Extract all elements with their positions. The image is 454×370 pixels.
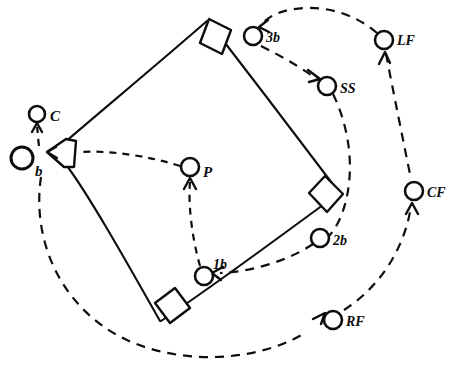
- field-svg: b C P 1b 2b 3b: [0, 0, 454, 370]
- third-base-marker[interactable]: [244, 27, 262, 45]
- path-outer-arc-right-to-center: [344, 212, 410, 310]
- path-inner-arc-third-to-short: [261, 46, 318, 80]
- left-field-label: LF: [396, 33, 416, 48]
- second-base-bag: [309, 176, 343, 212]
- batter-label: b: [35, 163, 43, 179]
- movement-paths: [37, 8, 411, 357]
- baseline-third-to-second: [209, 22, 338, 191]
- player-right-field[interactable]: RF: [324, 311, 365, 329]
- baseline-second-to-first: [161, 194, 338, 321]
- catcher-marker[interactable]: [29, 106, 45, 122]
- third-base-label: 3b: [265, 30, 280, 45]
- player-pitcher[interactable]: P: [181, 158, 213, 180]
- player-catcher[interactable]: C: [29, 106, 61, 124]
- center-field-label: CF: [427, 185, 446, 200]
- pitcher-label: P: [203, 164, 213, 180]
- pitcher-marker[interactable]: [181, 158, 199, 176]
- center-field-marker[interactable]: [405, 182, 423, 200]
- path-inner-arc-short-to-second: [325, 94, 350, 240]
- player-center-field[interactable]: CF: [405, 182, 446, 200]
- right-field-marker[interactable]: [324, 311, 342, 329]
- first-base-bag: [155, 288, 190, 323]
- player-second-base[interactable]: 2b: [311, 229, 347, 248]
- player-batter[interactable]: b: [11, 147, 43, 179]
- path-pitcher-to-home: [80, 152, 180, 166]
- shortstop-label: SS: [340, 81, 356, 96]
- right-field-label: RF: [345, 314, 365, 329]
- baseline-home-to-third: [57, 21, 207, 149]
- path-outer-arc-left-to-third: [264, 8, 377, 33]
- arrow-heads: [32, 20, 418, 324]
- path-first-to-pitcher: [189, 182, 200, 266]
- player-shortstop[interactable]: SS: [318, 77, 356, 96]
- shortstop-marker[interactable]: [318, 77, 336, 95]
- path-outer-arc-batter-to-right: [39, 177, 305, 357]
- arrow-into-leftfield-icon: [379, 52, 390, 64]
- first-base-marker[interactable]: [195, 267, 213, 285]
- arrow-into-shortstop-icon: [308, 70, 320, 82]
- arrow-into-centerfield-icon: [406, 203, 418, 214]
- second-base-label: 2b: [332, 233, 347, 248]
- first-base-label: 1b: [213, 257, 227, 272]
- baseball-field-diagram: b C P 1b 2b 3b: [0, 0, 454, 370]
- batter-marker[interactable]: [11, 147, 33, 169]
- second-base-marker[interactable]: [311, 229, 329, 247]
- home-plate: [47, 139, 76, 167]
- path-left-to-center: [386, 54, 411, 179]
- baseline-first-to-home: [64, 162, 160, 321]
- player-left-field[interactable]: LF: [375, 31, 416, 49]
- left-field-marker[interactable]: [375, 31, 393, 49]
- catcher-label: C: [50, 108, 61, 124]
- path-batter-to-catcher: [37, 127, 39, 146]
